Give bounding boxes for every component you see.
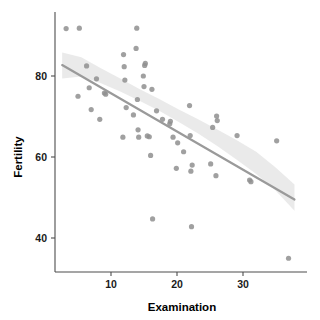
x-tick-label: 10 xyxy=(105,278,117,290)
data-point xyxy=(133,46,138,51)
data-point xyxy=(135,127,140,132)
data-point xyxy=(210,125,215,130)
y-axis: 406080 xyxy=(35,12,55,272)
data-point xyxy=(141,84,146,89)
data-point xyxy=(154,108,159,113)
data-point xyxy=(168,119,173,124)
x-axis-ticks: 102030 xyxy=(105,272,249,290)
data-point xyxy=(64,26,69,31)
data-point xyxy=(135,97,140,102)
data-point xyxy=(97,117,102,122)
data-point xyxy=(136,135,141,140)
data-point xyxy=(94,76,99,81)
data-point xyxy=(84,63,89,68)
scatter-plot-figure: 406080 102030 Examination Fertility xyxy=(0,0,320,320)
regression-line-group xyxy=(62,65,294,199)
data-point xyxy=(189,224,194,229)
data-point xyxy=(274,138,279,143)
data-point xyxy=(124,105,129,110)
data-point xyxy=(131,112,136,117)
data-point xyxy=(122,64,127,69)
y-axis-ticks: 406080 xyxy=(35,70,55,244)
data-point xyxy=(214,114,219,119)
x-tick-label: 30 xyxy=(237,278,249,290)
data-point xyxy=(187,103,192,108)
y-tick-label: 40 xyxy=(35,232,47,244)
data-point xyxy=(174,166,179,171)
data-point xyxy=(75,94,80,99)
data-point xyxy=(120,135,125,140)
data-point xyxy=(208,161,213,166)
data-point xyxy=(170,135,175,140)
data-point xyxy=(175,140,180,145)
data-point xyxy=(248,179,253,184)
data-point xyxy=(215,118,220,123)
data-point xyxy=(213,173,218,178)
data-point xyxy=(141,73,146,78)
x-tick-label: 20 xyxy=(171,278,183,290)
data-point xyxy=(148,153,153,158)
chart-canvas: 406080 102030 Examination Fertility xyxy=(0,0,320,320)
data-point xyxy=(150,216,155,221)
data-point xyxy=(122,77,127,82)
data-point xyxy=(77,26,82,31)
x-axis-title: Examination xyxy=(148,301,216,313)
data-point xyxy=(121,52,126,57)
y-tick-label: 80 xyxy=(35,70,47,82)
data-point xyxy=(89,107,94,112)
data-points-group xyxy=(64,26,292,261)
data-point xyxy=(190,163,195,168)
data-point xyxy=(147,134,152,139)
x-axis: 102030 xyxy=(55,272,307,290)
data-point xyxy=(188,169,193,174)
regression-line xyxy=(62,65,294,199)
y-tick-label: 60 xyxy=(35,151,47,163)
data-point xyxy=(286,256,291,261)
data-point xyxy=(143,61,148,66)
data-point xyxy=(87,85,92,90)
y-axis-title: Fertility xyxy=(12,136,24,178)
data-point xyxy=(134,26,139,31)
data-point xyxy=(149,87,154,92)
data-point xyxy=(234,133,239,138)
data-point xyxy=(181,149,186,154)
